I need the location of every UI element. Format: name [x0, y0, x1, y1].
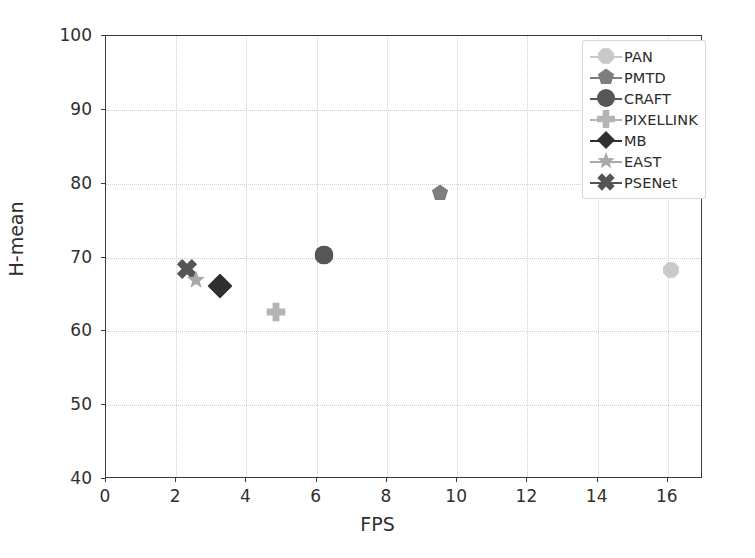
- x-tick-mark: [456, 478, 457, 482]
- scatter-plot-figure: H-mean 405060708090100 0246810121416 FPS…: [0, 0, 755, 558]
- data-point-craft: [314, 245, 333, 264]
- gridline-vertical: [387, 36, 388, 477]
- x-tick-label: 4: [240, 486, 251, 506]
- x-tick-mark: [667, 478, 668, 482]
- x-tick-label: 8: [381, 486, 392, 506]
- legend-label: PIXELLINK: [624, 112, 698, 128]
- legend-marker-craft-icon: [588, 88, 624, 109]
- x-tick-label: 0: [100, 486, 111, 506]
- legend-label: CRAFT: [624, 91, 671, 107]
- gridline-vertical: [457, 36, 458, 477]
- x-tick-label: 16: [656, 486, 678, 506]
- gridline-horizontal: [106, 331, 701, 332]
- legend-marker-pixellink-icon: [588, 109, 624, 130]
- data-point-pixellink: [267, 303, 286, 322]
- y-tick-label: 70: [70, 247, 92, 267]
- legend-label: PMTD: [624, 70, 666, 86]
- legend-item-psenet[interactable]: PSENet: [588, 172, 699, 193]
- y-tick-label: 60: [70, 320, 92, 340]
- y-tick-label: 80: [70, 173, 92, 193]
- legend-marker-east-icon: [588, 151, 624, 172]
- y-axis-label: H-mean: [0, 0, 36, 558]
- x-tick-mark: [316, 478, 317, 482]
- y-tick-label: 40: [70, 468, 92, 488]
- legend-marker-pmtd-icon: [588, 67, 624, 88]
- legend-label: PAN: [624, 49, 653, 65]
- y-tick-label: 50: [70, 394, 92, 414]
- x-axis-label: FPS: [0, 513, 755, 535]
- data-point-pan: [663, 262, 680, 279]
- legend: PANPMTDCRAFTPIXELLINKMBEASTPSENet: [582, 40, 706, 199]
- legend-item-pmtd[interactable]: PMTD: [588, 67, 699, 88]
- legend-item-craft[interactable]: CRAFT: [588, 88, 699, 109]
- legend-item-pan[interactable]: PAN: [588, 46, 699, 67]
- legend-glyph: [597, 173, 615, 191]
- legend-glyph: [598, 48, 615, 65]
- x-tick-mark: [245, 478, 246, 482]
- x-tick-mark: [386, 478, 387, 482]
- legend-label: MB: [624, 133, 647, 149]
- legend-item-east[interactable]: EAST: [588, 151, 699, 172]
- gridline-horizontal: [106, 405, 701, 406]
- x-tick-label: 6: [310, 486, 321, 506]
- data-point-mb: [208, 273, 233, 298]
- gridline-vertical: [527, 36, 528, 477]
- y-axis-label-text: H-mean: [5, 201, 27, 276]
- legend-item-pixellink[interactable]: PIXELLINK: [588, 109, 699, 130]
- legend-label: PSENet: [624, 175, 677, 191]
- y-tick-label: 90: [70, 99, 92, 119]
- legend-marker-pan-icon: [588, 46, 624, 67]
- legend-glyph: [598, 69, 615, 86]
- legend-marker-psenet-icon: [588, 172, 624, 193]
- legend-glyph: [597, 152, 615, 170]
- x-tick-mark: [597, 478, 598, 482]
- x-tick-label: 10: [445, 486, 467, 506]
- x-tick-label: 12: [516, 486, 538, 506]
- x-tick-mark: [105, 478, 106, 482]
- data-point-east: [186, 270, 205, 289]
- x-tick-label: 14: [586, 486, 608, 506]
- x-tick-mark: [175, 478, 176, 482]
- data-point-pmtd: [431, 184, 448, 201]
- legend-marker-mb-icon: [588, 130, 624, 151]
- legend-glyph: [597, 110, 615, 128]
- x-tick-mark: [526, 478, 527, 482]
- y-tick-label: 100: [60, 25, 92, 45]
- gridline-vertical: [176, 36, 177, 477]
- legend-glyph: [597, 131, 615, 149]
- legend-glyph: [597, 89, 615, 107]
- x-tick-label: 2: [170, 486, 181, 506]
- legend-item-mb[interactable]: MB: [588, 130, 699, 151]
- legend-label: EAST: [624, 154, 662, 170]
- gridline-vertical: [246, 36, 247, 477]
